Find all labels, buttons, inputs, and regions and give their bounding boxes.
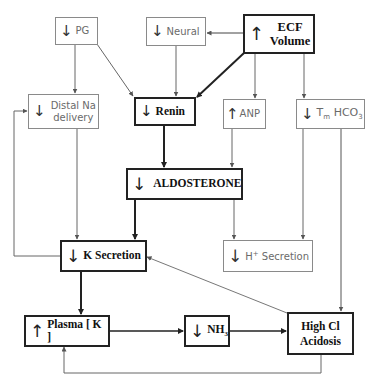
h-letter: H xyxy=(245,251,253,262)
arrow-down-icon: ↓ xyxy=(190,323,204,340)
edge-acidosis-to-plasma-k xyxy=(64,347,321,373)
arrow-down-icon: ↓ xyxy=(60,24,73,39)
node-tm-hco3-label: Tm HCO3 xyxy=(317,107,363,121)
arrow-down-icon: ↓ xyxy=(66,248,80,265)
node-distal-na-delivery: ↓ Distal Na delivery xyxy=(28,94,99,129)
arrow-up-icon: ↑ xyxy=(30,323,44,340)
nh-text: NH xyxy=(207,323,224,335)
arrow-up-icon: ↑ xyxy=(249,25,264,43)
h-secretion-word: Secretion xyxy=(259,251,309,262)
node-pg-label: PG xyxy=(76,25,90,37)
node-k-secretion: ↓ K Secretion xyxy=(60,240,147,272)
ecf-line1: ECF xyxy=(267,20,313,34)
node-h-secretion: ↓ H+ Secretion xyxy=(223,240,313,272)
node-aldosterone-label: ALDOSTERONE xyxy=(153,177,241,190)
node-renin: ↓ Renin xyxy=(134,97,196,126)
distal-na-line1: Distal Na xyxy=(49,100,98,112)
acidosis-line2: Acidosis xyxy=(289,334,352,349)
node-tm-hco3: ↓ Tm HCO3 xyxy=(296,99,365,129)
tm-sub3: 3 xyxy=(358,113,362,121)
arrow-down-icon: ↓ xyxy=(228,248,242,265)
node-anp-label: ANP xyxy=(240,108,260,120)
node-nh3: ↓ NH3 xyxy=(184,315,230,347)
edge-pg-to-renin xyxy=(97,44,133,96)
edge-k-secretion-to-distal-na xyxy=(14,111,60,256)
tm-hco: HCO xyxy=(330,106,358,119)
node-distal-na-label: Distal Na delivery xyxy=(49,100,98,123)
ecf-line2: Volume xyxy=(267,34,313,48)
node-plasma-k-label: Plasma [ K ] xyxy=(47,318,108,344)
arrow-down-icon: ↓ xyxy=(132,176,146,193)
arrow-up-icon: ↑ xyxy=(226,107,239,122)
node-nh3-label: NH3 xyxy=(207,323,228,338)
arrow-down-icon: ↓ xyxy=(140,104,153,119)
node-neural: ↓ Neural xyxy=(146,17,206,46)
node-plasma-k: ↑ Plasma [ K ] xyxy=(24,315,110,347)
node-anp: ↑ ANP xyxy=(223,99,266,129)
node-pg: ↓ PG xyxy=(55,17,98,45)
edge-ecf-to-renin xyxy=(197,53,244,97)
arrow-down-icon: ↓ xyxy=(33,104,46,119)
node-aldosterone: ↓ ALDOSTERONE xyxy=(126,168,243,200)
node-ecf-volume-label: ECF Volume xyxy=(267,20,313,49)
node-k-secretion-label: K Secretion xyxy=(83,249,141,262)
nh3-sub: 3 xyxy=(225,331,229,339)
node-renin-label: Renin xyxy=(156,105,185,118)
node-high-cl-acidosis: High Cl Acidosis xyxy=(287,312,354,355)
node-ecf-volume: ↑ ECF Volume xyxy=(243,14,315,54)
acidosis-line1: High Cl xyxy=(289,319,352,334)
arrow-down-icon: ↓ xyxy=(301,107,314,122)
distal-na-line2: delivery xyxy=(49,112,98,124)
renal-feedback-diagram: ↓ PG ↓ Neural ↑ ECF Volume ↓ Distal Na d… xyxy=(0,0,377,387)
node-h-secretion-label: H+ Secretion xyxy=(245,250,309,263)
arrow-down-icon: ↓ xyxy=(151,24,164,39)
node-acidosis-label: High Cl Acidosis xyxy=(289,319,352,349)
node-neural-label: Neural xyxy=(167,26,200,38)
